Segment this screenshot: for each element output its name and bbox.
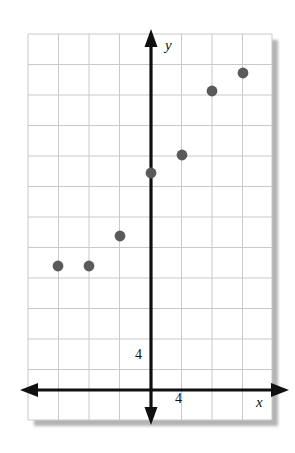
data-point[interactable] [146,168,157,179]
data-point[interactable] [53,261,64,272]
data-point[interactable] [115,231,126,242]
y-axis-arrow-up [145,29,158,47]
y-axis-arrow-down [145,407,158,425]
data-point[interactable] [177,150,188,161]
data-point[interactable] [207,86,218,97]
axes-group [20,29,289,425]
x-axis-arrow-left [20,383,38,397]
x-axis-arrow-right [271,383,289,397]
x-axis-label: x [256,395,263,410]
y-axis-label: y [165,38,172,53]
scatter-plot-figure: y x 4 4 [0,0,295,453]
data-point[interactable] [238,68,249,79]
x-axis-tick-label-4: 4 [175,392,182,406]
coordinate-plane-svg [0,0,295,453]
y-axis-tick-label-4: 4 [135,348,142,362]
data-point[interactable] [84,261,95,272]
